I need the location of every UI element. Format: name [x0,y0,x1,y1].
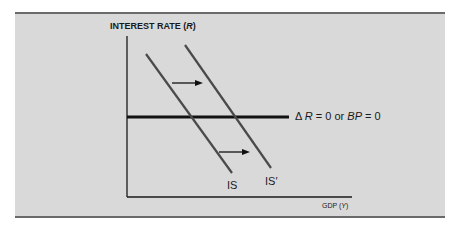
bp-line-label: Δ R = 0 or BP = 0 [295,110,381,122]
x-axis-label: GDP (Y) [322,202,348,209]
y-axis-label: INTEREST RATE (R) [110,21,196,31]
diagram-canvas [0,0,459,232]
is-prime-curve-label: IS′ [265,175,277,187]
shift-arrow-upper [172,80,203,86]
is-curve-label: IS [227,179,237,191]
is-prime-curve [185,45,271,168]
is-curve [146,54,232,173]
shift-arrow-lower [219,149,250,155]
